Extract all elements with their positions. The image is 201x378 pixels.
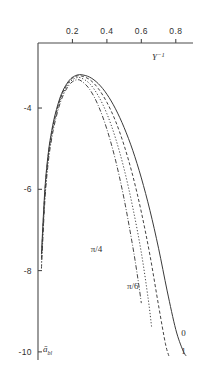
x-tick-label: 0.2 <box>66 26 79 36</box>
x-tick-label: 0.6 <box>135 26 148 36</box>
data-curves <box>41 75 186 356</box>
y-tick-label: -10 <box>19 347 33 357</box>
curve-label--6: π/6 <box>127 281 139 291</box>
x-axis-title: Y−1 <box>152 51 165 62</box>
x-tick-marks <box>72 39 175 43</box>
curve-label-0: 0 <box>181 328 186 338</box>
y-tick-label: -8 <box>24 266 32 276</box>
x-tick-label: 0.4 <box>100 26 113 36</box>
x-tick-labels: 0.20.40.60.8 <box>66 26 182 36</box>
y-tick-label: -4 <box>24 103 32 113</box>
curve-label--4: π/4 <box>91 244 103 254</box>
curve-label-1: 1 <box>181 346 186 356</box>
axes-group <box>38 43 193 360</box>
x-tick-label: 0.8 <box>169 26 182 36</box>
y-tick-labels: -4-6-8-10 <box>19 103 33 357</box>
plot-canvas: 0.20.40.60.8 -4-6-8-10 π/4π/601 Y−1 ābl <box>0 0 201 378</box>
y-tick-label: -6 <box>24 184 32 194</box>
curve-annotations: π/4π/601 <box>91 244 186 356</box>
figure-container: 0.20.40.60.8 -4-6-8-10 π/4π/601 Y−1 ābl <box>0 0 201 378</box>
y-tick-marks <box>38 108 42 352</box>
y-axis-title: ābl <box>43 344 53 356</box>
